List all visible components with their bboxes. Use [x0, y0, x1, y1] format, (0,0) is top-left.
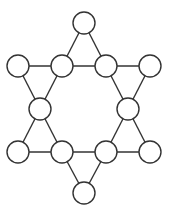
graph-node	[73, 182, 95, 204]
graph-node	[7, 141, 29, 163]
star-graph-diagram	[0, 0, 174, 218]
graph-node	[139, 141, 161, 163]
graph-node	[7, 55, 29, 77]
graph-node	[73, 12, 95, 34]
graph-node	[95, 141, 117, 163]
graph-node	[51, 141, 73, 163]
graph-node	[95, 55, 117, 77]
graph-node	[139, 55, 161, 77]
graph-node	[117, 98, 139, 120]
graph-node	[51, 55, 73, 77]
graph-node	[29, 98, 51, 120]
